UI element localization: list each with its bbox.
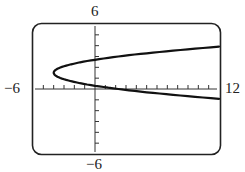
plot-area	[0, 0, 245, 172]
parabola-curve	[54, 47, 219, 99]
